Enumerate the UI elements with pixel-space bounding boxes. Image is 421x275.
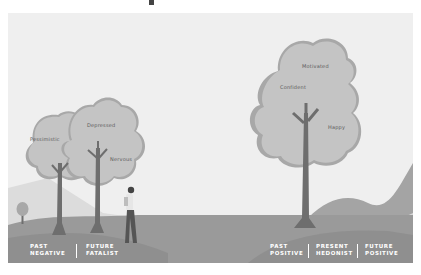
tree-label-depressed: Depressed xyxy=(87,122,115,128)
tree-label-motivated: Motivated xyxy=(302,63,329,69)
category-present-hedonist: PRESENT HEDONIST xyxy=(316,243,353,257)
illustration-panel: Pessimistic Depressed Nervous Motivated … xyxy=(8,13,413,263)
category-line2: NEGATIVE xyxy=(30,250,65,257)
category-line1: PAST xyxy=(30,243,65,250)
category-line2: POSITIVE xyxy=(270,250,303,257)
tree-depressed-canopy xyxy=(61,98,145,186)
tree-label-pessimistic: Pessimistic xyxy=(30,136,60,142)
tree-label-nervous: Nervous xyxy=(110,156,132,162)
category-line2: POSITIVE xyxy=(365,250,398,257)
top-edge-mark xyxy=(149,0,154,5)
category-divider xyxy=(76,244,77,258)
scene-illustration xyxy=(8,13,413,263)
category-future-fatalist: FUTURE FATALIST xyxy=(86,243,119,257)
category-line1: PRESENT xyxy=(316,243,353,250)
category-line1: PAST xyxy=(270,243,303,250)
tree-label-confident: Confident xyxy=(280,84,306,90)
category-line1: FUTURE xyxy=(86,243,119,250)
category-past-negative: PAST NEGATIVE xyxy=(30,243,65,257)
tree-label-happy: Happy xyxy=(328,124,345,130)
small-tree-canopy xyxy=(17,202,29,216)
category-line2: FATALIST xyxy=(86,250,119,257)
category-line1: FUTURE xyxy=(365,243,398,250)
category-future-positive: FUTURE POSITIVE xyxy=(365,243,398,257)
category-divider xyxy=(357,244,358,258)
category-divider xyxy=(308,244,309,258)
category-line2: HEDONIST xyxy=(316,250,353,257)
category-past-positive: PAST POSITIVE xyxy=(270,243,303,257)
